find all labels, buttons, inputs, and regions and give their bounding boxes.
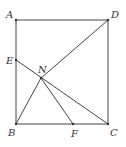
point-B	[15, 123, 17, 125]
label-F: F	[70, 128, 79, 139]
label-N: N	[37, 64, 48, 75]
point-C	[107, 123, 109, 125]
segment-DN	[41, 20, 108, 78]
segment-BN	[16, 78, 41, 124]
label-B: B	[7, 127, 15, 138]
point-E	[15, 59, 17, 61]
point-D	[107, 19, 109, 21]
label-D: D	[110, 9, 119, 20]
label-A: A	[5, 9, 13, 20]
label-E: E	[5, 55, 14, 66]
segment-EC	[16, 60, 108, 124]
point-F	[72, 123, 74, 125]
segment-NF	[41, 78, 73, 124]
point-A	[15, 19, 17, 21]
point-N	[40, 77, 42, 79]
geometry-figure: A D E N B F C	[0, 0, 126, 147]
label-C: C	[110, 127, 118, 138]
